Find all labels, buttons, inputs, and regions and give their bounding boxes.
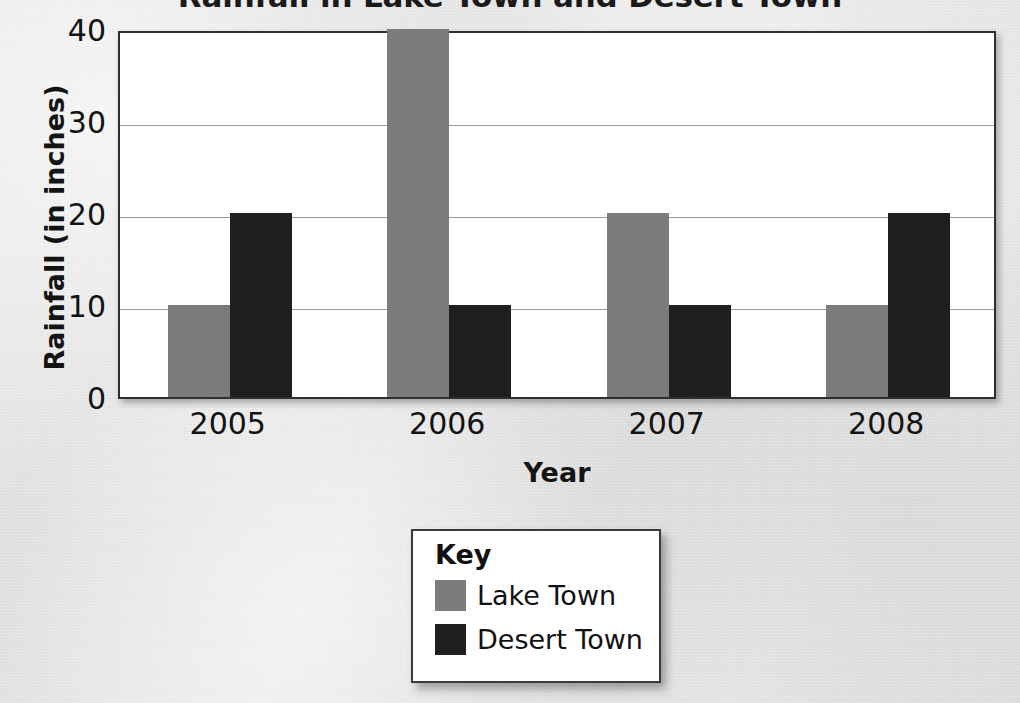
legend-entry: Desert Town (435, 617, 659, 661)
y-tick-label: 30 (44, 108, 106, 138)
legend-swatch-icon (435, 580, 466, 611)
bar-desert-town-2008 (888, 213, 950, 397)
bar-lake-town-2008 (826, 305, 888, 397)
legend-key-box: Key Lake TownDesert Town (411, 529, 661, 683)
y-axis-tick-labels: 010203040 (44, 0, 106, 703)
bars-layer (120, 33, 994, 397)
legend-label: Desert Town (477, 626, 643, 653)
legend-label: Lake Town (477, 582, 616, 609)
y-tick-label: 10 (44, 292, 106, 322)
x-axis-title: Year (118, 457, 996, 488)
chart-title: Rainfall in Lake Town and Desert Town (0, 0, 1020, 14)
chart-page: Rainfall in Lake Town and Desert Town Ra… (0, 0, 1020, 703)
x-tick-label: 2007 (629, 406, 705, 441)
legend-entry: Lake Town (435, 573, 659, 617)
y-tick-label: 0 (44, 384, 106, 414)
bar-desert-town-2005 (230, 213, 292, 397)
bar-lake-town-2007 (607, 213, 669, 397)
legend-entries: Lake TownDesert Town (435, 573, 659, 661)
x-tick-label: 2008 (848, 406, 924, 441)
bar-desert-town-2006 (449, 305, 511, 397)
legend-title: Key (435, 541, 659, 569)
y-tick-label: 20 (44, 200, 106, 230)
x-axis-tick-labels: 2005200620072008 (118, 406, 996, 452)
y-tick-label: 40 (44, 16, 106, 46)
bar-lake-town-2006 (387, 29, 449, 397)
bar-lake-town-2005 (168, 305, 230, 397)
bar-desert-town-2007 (669, 305, 731, 397)
legend-swatch-icon (435, 624, 466, 655)
x-tick-label: 2005 (190, 406, 266, 441)
plot-area (118, 31, 996, 399)
x-tick-label: 2006 (409, 406, 485, 441)
